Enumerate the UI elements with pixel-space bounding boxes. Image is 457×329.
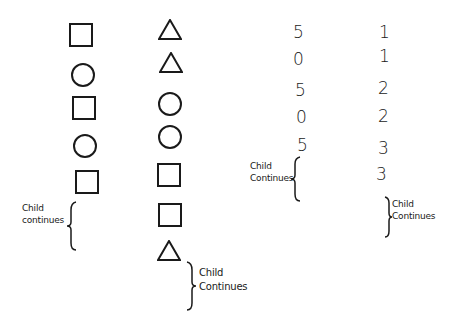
square-icon [157,163,181,187]
child-continues-note: Child Continues [250,160,293,184]
brace-icon [185,260,197,312]
square-icon [158,203,182,227]
circle-icon [71,63,95,87]
square-icon [72,96,96,120]
circle-icon [158,125,182,149]
number-item: 1 [379,48,390,65]
circle-icon [73,134,97,158]
number-item: 5 [293,24,304,41]
brace-icon [290,155,302,203]
number-item: 3 [376,166,387,183]
number-item: 1 [379,24,390,41]
square-icon [69,23,93,47]
triangle-icon [158,19,182,41]
number-item: 2 [378,108,389,125]
triangle-icon [159,52,183,74]
number-item: 0 [293,51,304,68]
number-item: 5 [297,137,308,154]
child-continues-note: Child Continues [392,198,435,222]
square-icon [75,170,99,194]
number-item: 5 [295,82,306,99]
child-continues-note: Child Continues [199,266,247,293]
brace-icon [66,200,78,252]
number-item: 2 [378,80,389,97]
number-item: 0 [296,109,307,126]
triangle-icon [157,240,181,262]
child-continues-note: Child continues [22,202,64,226]
number-item: 3 [378,140,389,157]
circle-icon [158,92,182,116]
